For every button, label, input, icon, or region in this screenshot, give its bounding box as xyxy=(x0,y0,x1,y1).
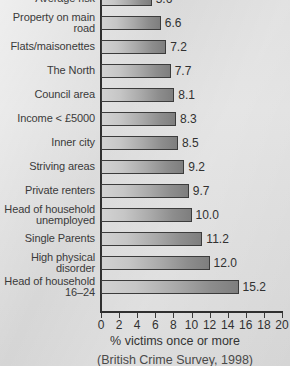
bar xyxy=(101,208,192,222)
category-label: High physical disorder xyxy=(0,252,95,275)
bar-row: Head of household 16–2415.2 xyxy=(0,280,290,304)
bar-row: Income < £50008.3 xyxy=(0,112,290,136)
x-axis-tick-label: 18 xyxy=(257,318,270,332)
category-label: Flats/maisonettes xyxy=(0,41,95,53)
x-axis-tick-label: 6 xyxy=(152,318,159,332)
x-axis-tick-label: 16 xyxy=(239,318,252,332)
bar-row: Flats/maisonettes7.2 xyxy=(0,40,290,64)
category-label: Inner city xyxy=(0,137,95,149)
bar xyxy=(101,184,189,198)
x-axis-tick-label: 0 xyxy=(98,318,105,332)
x-axis-tick-label: 4 xyxy=(134,318,141,332)
bar-row: The North7.7 xyxy=(0,64,290,88)
bar-value-label: 9.7 xyxy=(193,184,210,198)
bar-value-label: 8.1 xyxy=(178,88,195,102)
bar-value-label: 9.2 xyxy=(188,160,205,174)
x-axis-tick-label: 14 xyxy=(221,318,234,332)
x-axis-tick-label: 20 xyxy=(275,318,288,332)
category-label: Average risk xyxy=(0,0,95,5)
category-label: The North xyxy=(0,65,95,77)
bar-chart-figure: Average risk5.6Property on main road6.6F… xyxy=(0,0,290,366)
bar-row: Inner city8.5 xyxy=(0,136,290,160)
x-axis-tick-label: 2 xyxy=(116,318,123,332)
bar xyxy=(101,40,166,54)
bar-value-label: 7.7 xyxy=(175,64,192,78)
bar-row: Council area8.1 xyxy=(0,88,290,112)
bar xyxy=(101,232,202,246)
category-label: Striving areas xyxy=(0,161,95,173)
x-axis-title: % victims once or more xyxy=(0,334,290,348)
bar xyxy=(101,136,178,150)
bar xyxy=(101,64,171,78)
bar-value-label: 8.3 xyxy=(180,112,197,126)
bar xyxy=(101,160,184,174)
bar-row: Striving areas9.2 xyxy=(0,160,290,184)
category-label: Single Parents xyxy=(0,233,95,245)
bar-row: Property on main road6.6 xyxy=(0,16,290,40)
category-label: Council area xyxy=(0,89,95,101)
bar xyxy=(101,0,152,6)
source-caption: (British Crime Survey, 1998) xyxy=(0,353,290,366)
x-axis-tick-label: 10 xyxy=(185,318,198,332)
category-label: Property on main road xyxy=(0,12,95,35)
bar xyxy=(101,280,239,294)
category-label: Head of household unemployed xyxy=(0,204,95,227)
category-label: Income < £5000 xyxy=(0,113,95,125)
x-axis-tick-label: 8 xyxy=(170,318,177,332)
category-label: Head of household 16–24 xyxy=(0,276,95,299)
plot-area: Average risk5.6Property on main road6.6F… xyxy=(0,0,290,312)
bar xyxy=(101,256,210,270)
bar xyxy=(101,88,174,102)
bar-row: Head of household unemployed10.0 xyxy=(0,208,290,232)
x-axis-tick-label: 12 xyxy=(203,318,216,332)
bar-value-label: 12.0 xyxy=(214,256,237,270)
bar-value-label: 15.2 xyxy=(243,280,266,294)
bar-value-label: 5.6 xyxy=(156,0,173,6)
bar-value-label: 10.0 xyxy=(196,208,219,222)
bar xyxy=(101,112,176,126)
bar-value-label: 11.2 xyxy=(206,232,228,246)
category-label: Private renters xyxy=(0,185,95,197)
bar-value-label: 8.5 xyxy=(182,136,199,150)
bar-value-label: 7.2 xyxy=(170,40,187,54)
bar xyxy=(101,16,161,30)
bar-value-label: 6.6 xyxy=(165,16,182,30)
